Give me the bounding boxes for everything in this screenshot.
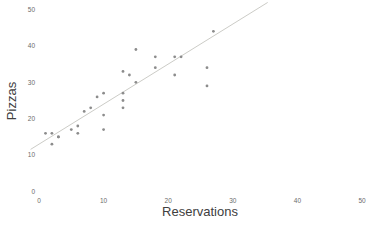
x-axis-label: Reservations bbox=[162, 204, 238, 219]
data-point bbox=[102, 114, 105, 117]
data-point bbox=[180, 55, 183, 58]
pizza-reservations-scatter-figure: 01020304050 01020304050 Reservations Piz… bbox=[0, 0, 382, 230]
data-point bbox=[57, 136, 60, 139]
data-point bbox=[44, 132, 47, 135]
y-tick-label: 20 bbox=[28, 115, 36, 122]
x-tick-label: 0 bbox=[37, 197, 41, 204]
y-axis-label: Pizzas bbox=[4, 81, 19, 120]
x-tick-label: 40 bbox=[294, 197, 302, 204]
y-tick-label: 0 bbox=[31, 188, 35, 195]
x-axis-tick-labels: 01020304050 bbox=[37, 197, 366, 204]
data-point bbox=[154, 66, 157, 69]
x-tick-label: 50 bbox=[358, 197, 366, 204]
y-tick-label: 30 bbox=[28, 79, 36, 86]
data-point bbox=[173, 74, 176, 77]
data-point bbox=[206, 85, 209, 88]
data-point bbox=[89, 106, 92, 109]
data-point bbox=[122, 70, 125, 73]
data-point bbox=[102, 92, 105, 95]
data-point bbox=[83, 110, 86, 113]
data-point bbox=[122, 92, 125, 95]
data-point bbox=[76, 132, 79, 135]
y-tick-label: 40 bbox=[28, 42, 36, 49]
data-point bbox=[212, 30, 215, 33]
data-point bbox=[51, 132, 54, 135]
data-point bbox=[96, 96, 99, 99]
scatter-plot: 01020304050 01020304050 Reservations Piz… bbox=[0, 0, 382, 230]
data-point bbox=[102, 128, 105, 131]
data-point bbox=[128, 74, 131, 77]
x-tick-label: 10 bbox=[100, 197, 108, 204]
data-point bbox=[70, 128, 73, 131]
x-tick-label: 20 bbox=[165, 197, 173, 204]
data-point bbox=[122, 99, 125, 102]
data-point bbox=[135, 48, 138, 51]
data-point bbox=[51, 143, 54, 146]
data-point bbox=[154, 55, 157, 58]
data-point bbox=[173, 55, 176, 58]
y-axis-tick-labels: 01020304050 bbox=[28, 6, 36, 195]
trend-line bbox=[31, 2, 268, 149]
data-point bbox=[122, 106, 125, 109]
trend-line-layer bbox=[31, 2, 268, 149]
y-tick-label: 50 bbox=[28, 6, 36, 13]
x-tick-label: 30 bbox=[229, 197, 237, 204]
y-tick-label: 10 bbox=[28, 151, 36, 158]
data-point bbox=[76, 125, 79, 128]
data-point bbox=[135, 81, 138, 84]
data-point bbox=[206, 66, 209, 69]
